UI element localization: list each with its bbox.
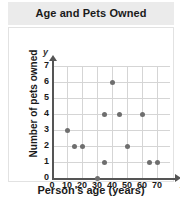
data-point bbox=[65, 128, 70, 133]
data-point bbox=[110, 80, 115, 85]
y-axis-title: Number of pets owned bbox=[28, 39, 39, 169]
data-point bbox=[140, 112, 145, 117]
data-point bbox=[117, 112, 122, 117]
y-tick-label: 5 bbox=[38, 92, 49, 102]
data-point bbox=[80, 144, 85, 149]
data-point bbox=[95, 176, 100, 181]
scatter-plot-figure: Age and Pets Owned Number of pets owned … bbox=[0, 0, 180, 215]
gridline-horizontal bbox=[52, 98, 170, 99]
data-point bbox=[147, 160, 152, 165]
y-tick-label: 0 bbox=[38, 172, 49, 182]
data-point bbox=[155, 160, 160, 165]
y-tick-label: 2 bbox=[38, 140, 49, 150]
plot-area: 010203040506070 01234567 x y bbox=[52, 66, 172, 184]
gridline-horizontal bbox=[52, 66, 170, 67]
y-axis-arrow-icon bbox=[49, 55, 57, 61]
x-axis-title: Person's age (years) bbox=[8, 184, 174, 196]
data-point bbox=[72, 144, 77, 149]
data-point bbox=[125, 144, 130, 149]
y-tick-label: 1 bbox=[38, 156, 49, 166]
y-axis-line bbox=[52, 60, 54, 178]
gridline-horizontal bbox=[52, 114, 170, 115]
chart-title: Age and Pets Owned bbox=[8, 2, 174, 25]
y-tick-label: 6 bbox=[38, 76, 49, 86]
gridline-horizontal bbox=[52, 162, 170, 163]
gridline-horizontal bbox=[52, 146, 170, 147]
y-axis-variable-label: y bbox=[43, 47, 48, 57]
y-tick-label: 4 bbox=[38, 108, 49, 118]
plot-card: Number of pets owned 010203040506070 012… bbox=[8, 27, 174, 182]
data-point bbox=[102, 160, 107, 165]
y-tick-label: 3 bbox=[38, 124, 49, 134]
gridline-horizontal bbox=[52, 130, 170, 131]
data-point bbox=[102, 112, 107, 117]
y-tick-label: 7 bbox=[38, 60, 49, 70]
